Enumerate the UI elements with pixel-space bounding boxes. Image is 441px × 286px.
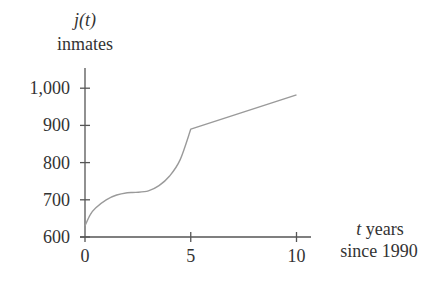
y-tick-label: 800 <box>43 153 70 173</box>
y-axis-function-label: j(t) <box>72 10 96 31</box>
y-tick-label: 700 <box>43 190 70 210</box>
x-axis-since-label: since 1990 <box>340 241 417 261</box>
chart: j(t) inmates 6007008009001,000 0510 t ye… <box>0 0 441 286</box>
x-tick-label: 5 <box>186 246 195 266</box>
y-tick-label: 1,000 <box>30 78 71 98</box>
x-axis-unit-label: t years <box>356 219 404 239</box>
y-tick-label: 900 <box>43 115 70 135</box>
y-tick-label: 600 <box>43 227 70 247</box>
y-ticks: 6007008009001,000 <box>30 78 91 247</box>
x-tick-label: 0 <box>81 246 90 266</box>
x-tick-label: 10 <box>288 246 306 266</box>
y-axis-unit-label: inmates <box>57 34 113 54</box>
data-curve <box>85 95 297 226</box>
